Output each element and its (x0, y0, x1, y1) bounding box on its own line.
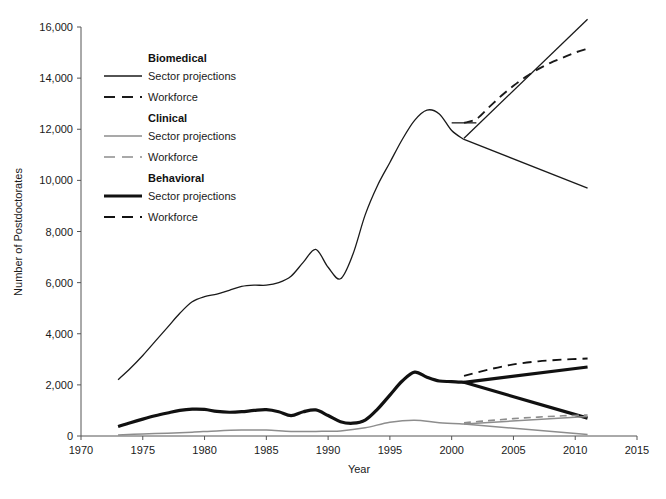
y-tick-label: 6,000 (45, 277, 73, 289)
x-tick-label: 1980 (192, 444, 216, 456)
x-tick-label: 1970 (69, 444, 93, 456)
postdoctorates-line-chart: 02,0004,0006,0008,00010,00012,00014,0001… (0, 0, 666, 499)
legend-item-label: Sector projections (148, 190, 237, 202)
x-tick-label: 1985 (254, 444, 278, 456)
x-axis-title: Year (348, 463, 371, 475)
legend-item-label: Workforce (148, 151, 198, 163)
legend-group-heading: Clinical (148, 112, 187, 124)
x-tick-label: 1975 (131, 444, 155, 456)
legend-item-label: Sector projections (148, 70, 237, 82)
x-tick-label: 1990 (316, 444, 340, 456)
legend-group-heading: Biomedical (148, 52, 207, 64)
legend-item-label: Sector projections (148, 130, 237, 142)
y-tick-label: 2,000 (45, 379, 73, 391)
y-tick-label: 14,000 (39, 72, 73, 84)
y-tick-label: 12,000 (39, 123, 73, 135)
legend-item-label: Workforce (148, 211, 198, 223)
y-tick-label: 8,000 (45, 226, 73, 238)
legend-group-heading: Behavioral (148, 172, 204, 184)
x-tick-label: 2000 (439, 444, 463, 456)
x-tick-label: 2005 (501, 444, 525, 456)
chart-figure: 02,0004,0006,0008,00010,00012,00014,0001… (0, 0, 666, 499)
y-axis-title: Number of Postdoctorates (12, 168, 24, 296)
x-tick-label: 2010 (563, 444, 587, 456)
y-tick-label: 16,000 (39, 21, 73, 33)
y-tick-label: 10,000 (39, 174, 73, 186)
x-tick-label: 1995 (378, 444, 402, 456)
y-tick-label: 4,000 (45, 328, 73, 340)
y-tick-label: 0 (67, 430, 73, 442)
x-tick-label: 2015 (625, 444, 649, 456)
chart-background (0, 0, 666, 499)
legend-item-label: Workforce (148, 91, 198, 103)
